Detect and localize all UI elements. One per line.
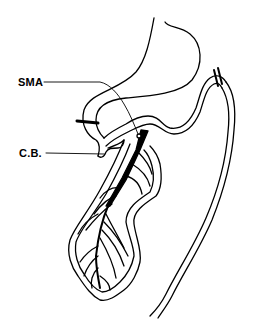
diagram-svg xyxy=(0,0,259,322)
cb-leader-line xyxy=(46,153,104,154)
cb-label: C.B. xyxy=(19,148,42,159)
sma-leader-line xyxy=(44,82,138,134)
sma-branch xyxy=(126,176,142,194)
anatomical-diagram: SMA C.B. xyxy=(0,0,259,322)
sma-origin xyxy=(137,134,141,138)
jejunum-outer xyxy=(158,82,235,318)
sma-label: SMA xyxy=(18,77,43,88)
duodenum-outer xyxy=(104,76,226,138)
division-bar-left xyxy=(77,121,98,123)
duodenum-inner xyxy=(106,83,222,146)
stomach-outline-right xyxy=(96,22,200,138)
sma-main-branch xyxy=(96,206,108,288)
sma-branch xyxy=(100,276,110,290)
sma-branch xyxy=(132,164,150,186)
sma-branch xyxy=(104,222,128,256)
